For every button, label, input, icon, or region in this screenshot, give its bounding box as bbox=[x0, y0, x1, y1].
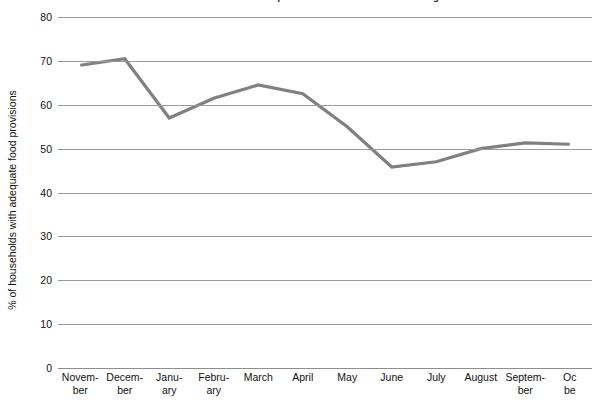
gridline-0 bbox=[58, 368, 592, 369]
y-tick-label-50: 50 bbox=[26, 144, 52, 154]
gridline-70 bbox=[58, 61, 592, 62]
y-tick-label-30: 30 bbox=[26, 231, 52, 241]
gridline-50 bbox=[58, 149, 592, 150]
x-tick-label-november: Novem- ber bbox=[58, 371, 103, 396]
y-axis-title-text: % of households with adequate food provi… bbox=[6, 90, 18, 309]
y-tick-label-10: 10 bbox=[26, 319, 52, 329]
gridline-30 bbox=[58, 236, 592, 237]
gridline-10 bbox=[58, 324, 592, 325]
y-axis-title: % of households with adequate food provi… bbox=[0, 28, 24, 372]
y-axis-tick-labels: 01020304050607080 bbox=[26, 17, 52, 368]
gridline-20 bbox=[58, 280, 592, 281]
x-tick-label-january: Janu- ary bbox=[147, 371, 192, 396]
x-tick-label-september: Septem- ber bbox=[503, 371, 548, 396]
x-tick-label-may: May bbox=[325, 371, 370, 384]
y-tick-label-80: 80 bbox=[26, 12, 52, 22]
gridline-80 bbox=[58, 17, 592, 18]
y-tick-label-40: 40 bbox=[26, 188, 52, 198]
x-tick-label-december: Decem- ber bbox=[103, 371, 148, 396]
x-tick-label-march: March bbox=[236, 371, 281, 384]
chart-title: FIGURE 10. Months of Adequate Household … bbox=[0, 0, 592, 2]
plot-area bbox=[58, 17, 592, 368]
x-axis-tick-labels: Novem- berDecem- berJanu- aryFebru- aryM… bbox=[58, 371, 592, 404]
y-tick-label-0: 0 bbox=[26, 363, 52, 373]
y-tick-label-60: 60 bbox=[26, 100, 52, 110]
x-tick-label-april: April bbox=[281, 371, 326, 384]
x-tick-label-october: Oc be bbox=[548, 371, 592, 396]
figure-container: FIGURE 10. Months of Adequate Household … bbox=[0, 0, 592, 404]
x-tick-label-february: Febru- ary bbox=[192, 371, 237, 396]
y-tick-label-70: 70 bbox=[26, 56, 52, 66]
x-tick-label-august: August bbox=[459, 371, 504, 384]
y-tick-label-20: 20 bbox=[26, 275, 52, 285]
x-tick-label-july: July bbox=[414, 371, 459, 384]
gridline-60 bbox=[58, 105, 592, 106]
series-polyline bbox=[80, 59, 570, 167]
x-tick-label-june: June bbox=[370, 371, 415, 384]
gridline-40 bbox=[58, 193, 592, 194]
